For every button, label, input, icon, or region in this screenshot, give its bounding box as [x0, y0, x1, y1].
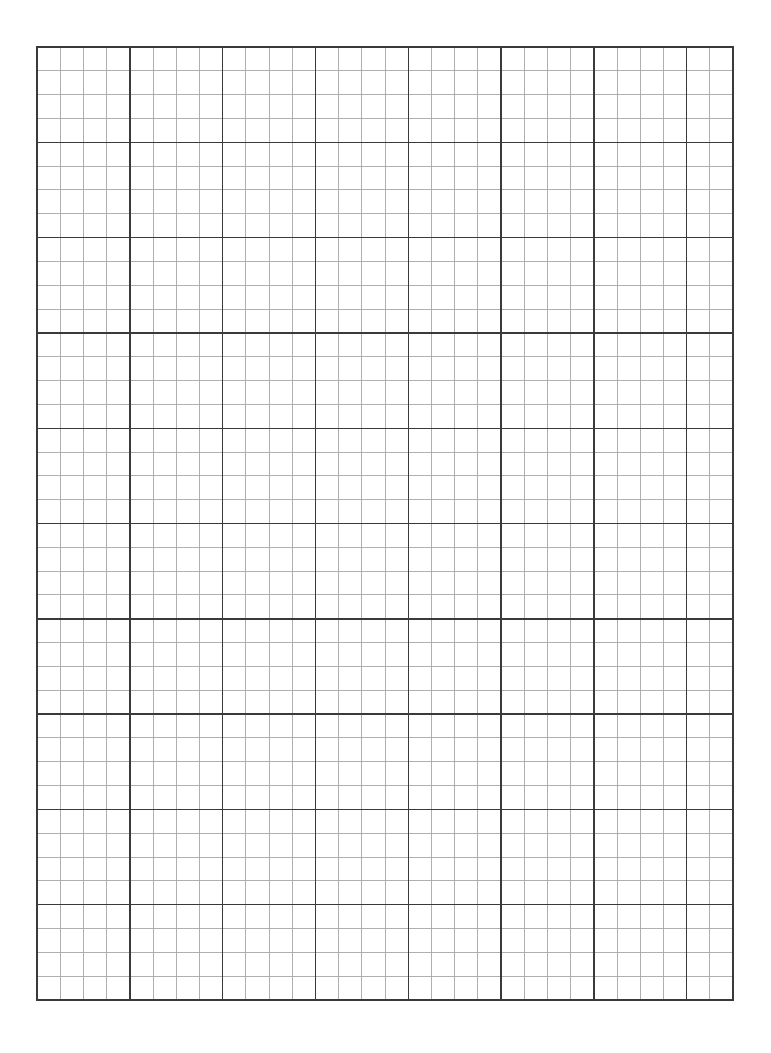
- grid-lines: [0, 0, 771, 1053]
- graph-paper-sheet: [0, 0, 771, 1053]
